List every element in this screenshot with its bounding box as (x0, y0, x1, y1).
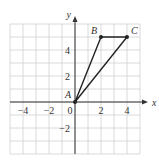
point-label-c: C (131, 25, 138, 36)
coordinate-plane: −4−202442−2xyABC (0, 0, 159, 163)
point-b (99, 35, 103, 39)
x-axis-arrow-icon (142, 100, 148, 105)
x-axis-label: x (151, 97, 157, 108)
x-tick-label: −2 (44, 105, 55, 116)
y-axis-arrow-icon (73, 16, 78, 22)
point-label-a: A (64, 89, 72, 100)
y-axis-label: y (66, 9, 72, 20)
x-tick-label: 0 (68, 105, 73, 116)
point-label-b: B (91, 25, 97, 36)
x-tick-label: 4 (125, 105, 130, 116)
x-tick-label: 2 (99, 105, 104, 116)
point-a (73, 100, 77, 104)
y-tick-label: 4 (65, 45, 70, 56)
x-tick-label: −4 (18, 105, 29, 116)
y-tick-label: 2 (65, 71, 70, 82)
y-tick-label: −2 (59, 123, 70, 134)
point-c (125, 35, 129, 39)
